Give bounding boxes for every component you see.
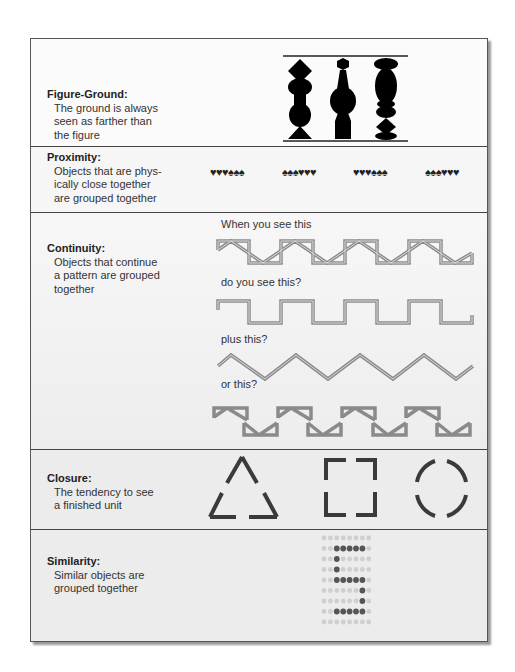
light-dot: [341, 557, 346, 562]
light-dot: [341, 588, 346, 593]
light-dot: [328, 536, 333, 541]
proximity-symbol-group-2: ♠♠♠♥♥♥: [282, 166, 316, 178]
vase-faces-figure-illustration: [283, 54, 413, 144]
light-dot: [322, 609, 327, 614]
light-dot: [322, 567, 327, 572]
dark-dot: [334, 577, 340, 583]
figure-ground-desc-2: seen as farther than: [47, 115, 158, 129]
closure-title: Closure:: [47, 472, 154, 486]
light-dot: [347, 588, 352, 593]
light-dot: [354, 567, 359, 572]
continuity-caption-3: plus this?: [221, 333, 267, 345]
light-dot: [322, 599, 327, 604]
light-dot: [354, 588, 359, 593]
proximity-label: Proximity: Objects that are phys- ically…: [47, 151, 162, 205]
continuity-label: Continuity: Objects that continue a patt…: [47, 242, 160, 296]
light-dot: [322, 546, 327, 551]
figure-ground-title: Figure-Ground:: [47, 88, 158, 102]
fragmented-pieces-illustration: [211, 403, 491, 443]
light-dot: [322, 620, 327, 625]
light-dot: [334, 536, 339, 541]
light-dot: [328, 620, 333, 625]
dark-dot: [347, 546, 353, 552]
similarity-desc-2: grouped together: [47, 582, 144, 596]
light-dot: [322, 536, 327, 541]
light-dot: [366, 620, 371, 625]
figure-ground-desc-3: the figure: [47, 129, 158, 143]
continuity-caption-2: do you see this?: [221, 276, 301, 288]
light-dot: [328, 588, 333, 593]
light-dot: [334, 599, 339, 604]
light-dot: [341, 536, 346, 541]
section-closure: Closure: The tendency to see a finished …: [31, 450, 487, 530]
figure-ground-desc-1: The ground is always: [47, 102, 158, 116]
combined-pattern-illustration: [217, 238, 477, 268]
dark-dot: [340, 577, 346, 583]
light-dot: [366, 578, 371, 583]
similarity-label: Similarity: Similar objects are grouped …: [47, 555, 144, 596]
similarity-title: Similarity:: [47, 555, 144, 569]
light-dot: [354, 536, 359, 541]
light-dot: [354, 557, 359, 562]
light-dot: [366, 536, 371, 541]
light-dot: [366, 599, 371, 604]
section-similarity: Similarity: Similar objects are grouped …: [31, 530, 487, 641]
proximity-symbol-group-1: ♥♥♥♠♠♠: [210, 166, 244, 178]
light-dot: [328, 567, 333, 572]
proximity-desc-3: are grouped together: [47, 192, 162, 206]
light-dot: [322, 557, 327, 562]
gestalt-principles-table: Figure-Ground: The ground is always seen…: [30, 38, 488, 642]
similarity-desc-1: Similar objects are: [47, 569, 144, 583]
dark-dot: [353, 546, 359, 552]
light-dot: [360, 620, 365, 625]
proximity-title: Proximity:: [47, 151, 162, 165]
proximity-symbol-group-4: ♠♠♠♥♥♥: [425, 166, 459, 178]
light-dot: [341, 599, 346, 604]
dark-dot: [334, 546, 340, 552]
proximity-desc-1: Objects that are phys-: [47, 165, 162, 179]
light-dot: [366, 567, 371, 572]
closure-shapes-illustration: [206, 450, 486, 529]
dark-dot: [347, 577, 353, 583]
closure-desc-2: a finished unit: [47, 499, 154, 513]
continuity-desc-3: together: [47, 283, 160, 297]
figure-ground-label: Figure-Ground: The ground is always seen…: [47, 88, 158, 142]
dark-dot: [340, 546, 346, 552]
light-dot: [347, 599, 352, 604]
continuity-title: Continuity:: [47, 242, 160, 256]
similarity-dot-grid: [321, 535, 373, 630]
dark-dot: [360, 577, 366, 583]
light-dot: [366, 546, 371, 551]
light-dot: [347, 567, 352, 572]
light-dot: [360, 567, 365, 572]
light-dot: [328, 578, 333, 583]
section-figure-ground: Figure-Ground: The ground is always seen…: [31, 39, 487, 147]
light-dot: [341, 567, 346, 572]
light-dot: [366, 557, 371, 562]
section-proximity: Proximity: Objects that are phys- ically…: [31, 147, 487, 213]
dark-dot: [360, 588, 366, 594]
light-dot: [354, 599, 359, 604]
light-dot: [328, 609, 333, 614]
dark-dot: [334, 567, 340, 573]
section-continuity: Continuity: Objects that continue a patt…: [31, 213, 487, 450]
continuity-caption-1: When you see this: [221, 218, 312, 230]
dark-dot: [340, 609, 346, 615]
light-dot: [328, 557, 333, 562]
light-dot: [328, 599, 333, 604]
light-dot: [341, 620, 346, 625]
light-dot: [347, 620, 352, 625]
dark-dot: [360, 609, 366, 615]
light-dot: [328, 546, 333, 551]
light-dot: [334, 620, 339, 625]
light-dot: [360, 557, 365, 562]
dark-dot: [334, 556, 340, 562]
proximity-symbol-group-3: ♥♥♥♠♠♠: [353, 166, 387, 178]
continuity-caption-4: or this?: [221, 378, 257, 390]
closure-desc-1: The tendency to see: [47, 486, 154, 500]
light-dot: [347, 536, 352, 541]
dark-dot: [360, 546, 366, 552]
proximity-desc-2: ically close together: [47, 178, 162, 192]
closure-label: Closure: The tendency to see a finished …: [47, 472, 154, 513]
light-dot: [360, 536, 365, 541]
